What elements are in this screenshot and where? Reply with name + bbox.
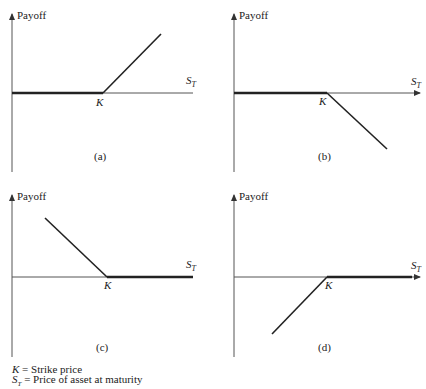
x-axis-label: ST	[411, 75, 422, 90]
legend-asset-price: ST = Price of asset at maturity	[12, 374, 142, 389]
panel-caption: (d)	[318, 341, 331, 354]
y-axis-label: Payoff	[239, 190, 268, 202]
panel-d: Payoff ST K (d)	[234, 190, 422, 357]
panel-caption: (c)	[96, 341, 109, 354]
panel-b: Payoff ST K (b)	[234, 9, 422, 172]
strike-label: K	[103, 279, 112, 291]
panel-a: Payoff ST K (a)	[12, 9, 197, 172]
strike-label: K	[324, 279, 333, 291]
panel-caption: (b)	[318, 150, 331, 163]
x-axis-label: ST	[186, 258, 197, 273]
panel-caption: (a)	[94, 150, 107, 163]
payoff-slope	[327, 93, 387, 149]
payoff-slope	[272, 277, 327, 334]
panel-c: Payoff ST K (c)	[12, 190, 197, 357]
y-axis-label: Payoff	[239, 9, 268, 21]
payoff-slope	[45, 218, 107, 277]
strike-label: K	[95, 96, 104, 108]
payoff-slope	[103, 34, 161, 93]
strike-label: K	[318, 95, 327, 107]
x-axis-label: ST	[411, 259, 422, 274]
y-axis-label: Payoff	[17, 190, 46, 202]
legend: K = Strike price ST = Price of asset at …	[12, 364, 142, 389]
y-axis-label: Payoff	[17, 9, 46, 21]
x-axis-label: ST	[186, 74, 197, 89]
